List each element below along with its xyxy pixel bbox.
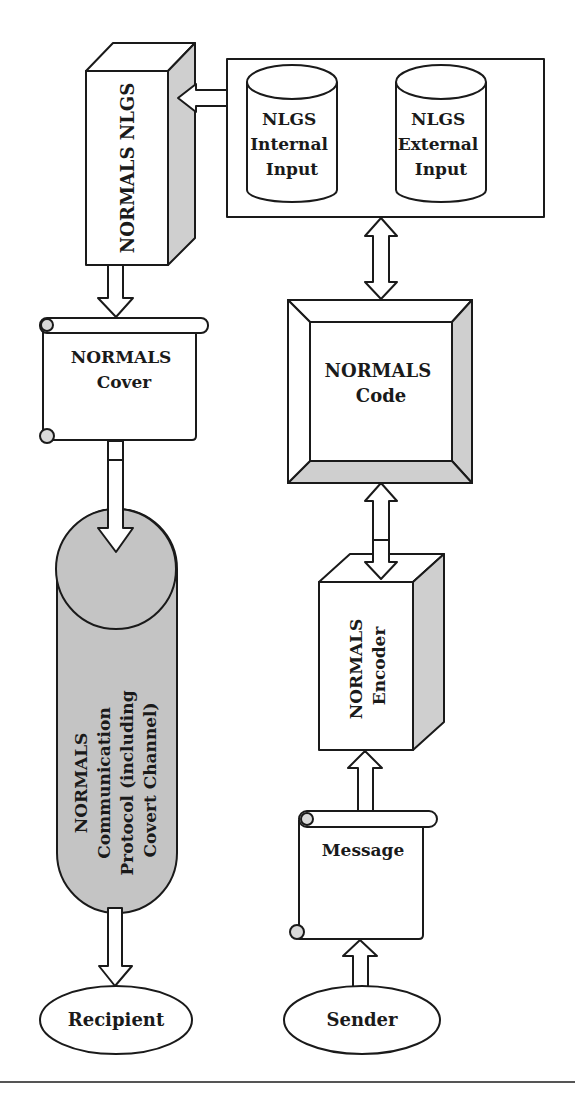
cover-scroll: NORMALS Cover xyxy=(40,318,208,443)
sender-node: Sender xyxy=(284,986,440,1054)
protocol-line4: Covert Channel) xyxy=(140,702,160,857)
cover-line1: NORMALS xyxy=(71,347,172,367)
arrow-message-to-encoder xyxy=(348,751,382,811)
recipient-label: Recipient xyxy=(68,1009,165,1030)
protocol-line2: Communication xyxy=(94,707,114,858)
encoder-line2: Encoder xyxy=(369,626,389,706)
code-line2: Code xyxy=(356,385,406,406)
recipient-node: Recipient xyxy=(40,986,192,1054)
input-container: NLGS Internal Input NLGS External Input xyxy=(227,59,544,217)
external-input-line2: External xyxy=(398,134,479,154)
arrow-protocol-to-recipient xyxy=(99,908,132,986)
arrow-inputs-code-bidirectional xyxy=(365,218,397,299)
protocol-pill: NORMALS Communication Protocol (includin… xyxy=(56,460,177,913)
sender-label: Sender xyxy=(326,1009,398,1030)
protocol-line1: NORMALS xyxy=(71,733,91,834)
arrow-sender-to-message xyxy=(343,940,377,990)
encoder-line1: NORMALS xyxy=(346,619,366,720)
internal-input-line3: Input xyxy=(266,159,319,179)
external-input-line1: NLGS xyxy=(411,109,465,129)
code-frame: NORMALS Code xyxy=(288,300,472,483)
external-input-database: NLGS External Input xyxy=(396,65,486,202)
arrow-nlgs-to-cover xyxy=(98,265,133,317)
code-line1: NORMALS xyxy=(325,360,432,381)
encoder-block: NORMALS Encoder xyxy=(319,540,444,750)
nlgs-block: NORMALS NLGS xyxy=(86,43,195,265)
nlgs-block-label: NORMALS NLGS xyxy=(117,83,138,253)
external-input-line3: Input xyxy=(415,159,468,179)
normals-architecture-diagram: NORMALS NLGS NLGS Internal Input NLGS Ex… xyxy=(0,0,575,1093)
cover-line2: Cover xyxy=(97,372,153,392)
message-scroll: Message xyxy=(290,811,437,939)
internal-input-line1: NLGS xyxy=(262,109,316,129)
internal-input-database: NLGS Internal Input xyxy=(247,65,337,202)
internal-input-line2: Internal xyxy=(250,134,328,154)
message-label: Message xyxy=(322,840,405,860)
protocol-line3: Protocol (including xyxy=(117,690,137,875)
